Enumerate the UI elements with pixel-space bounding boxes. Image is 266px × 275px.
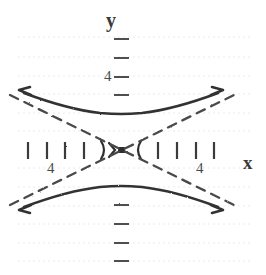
hyperbola-figure: y x 4 4 4	[0, 0, 266, 275]
graph-canvas	[0, 0, 266, 275]
x-axis-tick-label-positive-four: 4	[196, 161, 204, 176]
x-axis-tick-label-negative-four: 4	[47, 161, 55, 176]
y-axis-tick-label-positive-four: 4	[104, 69, 112, 84]
y-axis-label: y	[106, 10, 116, 30]
x-axis-label: x	[243, 153, 253, 172]
